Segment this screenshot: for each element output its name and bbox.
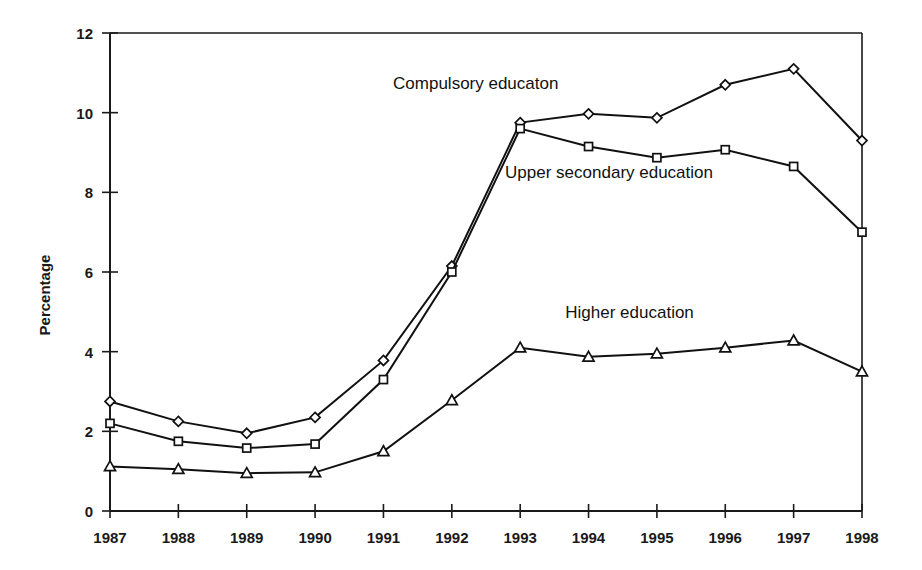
data-point-square-marker xyxy=(243,444,251,452)
y-axis-title: Percentage xyxy=(36,255,53,336)
data-point-square-marker xyxy=(311,440,319,448)
y-tick-label: 12 xyxy=(76,25,93,42)
x-tick-label: 1995 xyxy=(640,529,673,546)
y-tick-label: 2 xyxy=(85,423,93,440)
x-tick-label: 1997 xyxy=(777,529,810,546)
data-point-square-marker xyxy=(790,162,798,170)
data-point-square-marker xyxy=(448,268,456,276)
data-point-square-marker xyxy=(858,228,866,236)
x-tick-label: 1998 xyxy=(845,529,878,546)
data-point-square-marker xyxy=(653,154,661,162)
x-tick-label: 1994 xyxy=(572,529,606,546)
data-point-square-marker xyxy=(379,376,387,384)
chart-figure: 024681012 198719881989199019911992199319… xyxy=(0,0,922,570)
x-tick-label: 1991 xyxy=(367,529,400,546)
x-tick-label: 1996 xyxy=(709,529,742,546)
x-tick-label: 1989 xyxy=(230,529,263,546)
x-tick-label: 1988 xyxy=(162,529,195,546)
data-point-square-marker xyxy=(516,125,524,133)
y-tick-label: 8 xyxy=(85,184,93,201)
y-tick-label: 10 xyxy=(76,105,93,122)
series-label-3: Higher education xyxy=(565,303,694,322)
data-point-square-marker xyxy=(721,146,729,154)
data-point-square-marker xyxy=(106,419,114,427)
y-tick-label: 4 xyxy=(85,344,94,361)
x-tick-label: 1990 xyxy=(298,529,331,546)
data-point-square-marker xyxy=(585,143,593,151)
y-tick-label: 0 xyxy=(85,503,93,520)
series-label-1: Compulsory educaton xyxy=(393,74,558,93)
line-chart: 024681012 198719881989199019911992199319… xyxy=(0,0,922,570)
x-tick-label: 1992 xyxy=(435,529,468,546)
x-tick-label: 1993 xyxy=(503,529,536,546)
x-tick-label: 1987 xyxy=(93,529,126,546)
y-tick-label: 6 xyxy=(85,264,93,281)
data-point-square-marker xyxy=(174,437,182,445)
series-label-2: Upper secondary education xyxy=(505,163,713,182)
